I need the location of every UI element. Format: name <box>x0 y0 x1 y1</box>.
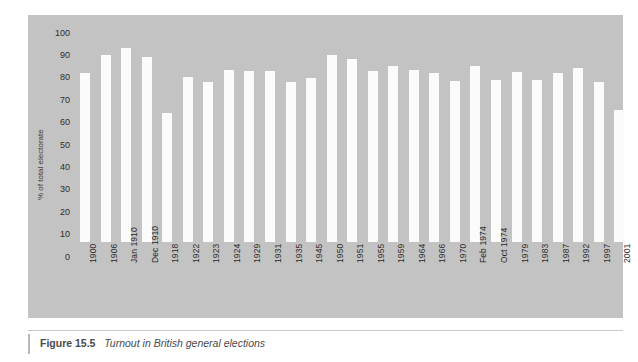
x-tick-label: 1979 <box>521 244 530 263</box>
x-tick-label: 1987 <box>562 244 571 263</box>
y-tick-label: 80 <box>44 73 70 82</box>
x-tick-label: 1950 <box>336 244 345 263</box>
bar <box>553 73 563 242</box>
x-tick-label: 1924 <box>233 244 242 263</box>
x-tick-label: 1955 <box>377 244 386 263</box>
y-tick-label: 90 <box>44 51 70 60</box>
bar <box>327 55 337 242</box>
figure-caption: Figure 15.5 Turnout in British general e… <box>40 337 265 349</box>
x-tick-label: 1983 <box>541 244 550 263</box>
bar <box>286 82 296 242</box>
caption-divider <box>28 330 623 331</box>
y-tick-label: 0 <box>44 253 70 262</box>
y-tick-label: 100 <box>44 29 70 38</box>
bar <box>491 80 501 242</box>
x-tick-label: 1997 <box>603 244 612 263</box>
bar <box>532 80 542 242</box>
y-tick-label: 40 <box>44 163 70 172</box>
bar <box>573 68 583 242</box>
x-tick-label: 1900 <box>89 244 98 263</box>
x-tick-label: 1959 <box>397 244 406 263</box>
x-tick-label: 1964 <box>418 244 427 263</box>
y-axis-ticks: 0102030405060708090100 <box>44 0 70 303</box>
x-tick-label: Feb 1974 <box>479 226 488 263</box>
x-tick-label: 2001 <box>623 244 632 263</box>
x-tick-label: 1929 <box>253 244 262 263</box>
bar <box>244 71 254 242</box>
y-tick-label: 10 <box>44 230 70 239</box>
x-tick-label: 1966 <box>438 244 447 263</box>
x-tick-label: 1918 <box>171 244 180 263</box>
caption-accent-bar <box>28 334 30 354</box>
x-tick-label: 1935 <box>295 244 304 263</box>
bar <box>203 82 213 242</box>
bar <box>306 78 316 242</box>
bar <box>142 57 152 242</box>
bar <box>450 81 460 242</box>
x-tick-label: Dec 1910 <box>151 226 160 263</box>
y-tick-label: 70 <box>44 96 70 105</box>
bar <box>614 110 624 242</box>
bar <box>594 82 604 242</box>
bar <box>121 48 131 242</box>
y-tick-label: 30 <box>44 185 70 194</box>
x-tick-label: 1992 <box>582 244 591 263</box>
x-tick-label: 1922 <box>192 244 201 263</box>
caption-title: Turnout in British general elections <box>104 337 265 349</box>
bar <box>470 66 480 242</box>
x-tick-label: 1951 <box>356 244 365 263</box>
bar <box>80 73 90 242</box>
x-tick-label: Jan 1910 <box>130 227 139 263</box>
bar <box>162 113 172 242</box>
y-tick-label: 20 <box>44 208 70 217</box>
x-tick-label: 1906 <box>110 244 119 263</box>
x-tick-label: 1931 <box>274 244 283 263</box>
bar <box>183 77 193 242</box>
bar <box>388 66 398 242</box>
x-tick-label: 1945 <box>315 244 324 263</box>
bar <box>224 70 234 242</box>
bar <box>101 55 111 242</box>
bar <box>512 72 522 242</box>
bar <box>368 71 378 242</box>
bar <box>347 59 357 242</box>
y-tick-label: 50 <box>44 141 70 150</box>
bar <box>409 70 419 242</box>
figure-container: % of total electorate 010203040506070809… <box>0 0 638 362</box>
caption-number: Figure 15.5 <box>40 337 95 349</box>
x-tick-label: 1970 <box>459 244 468 263</box>
y-tick-label: 60 <box>44 118 70 127</box>
x-tick-label: Oct 1974 <box>500 228 509 263</box>
x-tick-label: 1923 <box>212 244 221 263</box>
bar <box>265 71 275 242</box>
bar <box>429 73 439 242</box>
